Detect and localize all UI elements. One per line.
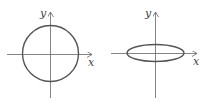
ellipse-graph: x y [111,7,200,98]
y-axis-label: y [39,7,47,20]
x-axis-label: x [193,55,200,68]
circle-graph: x y [7,7,95,98]
y-axis-label: y [144,7,152,20]
x-axis-label: x [88,56,95,69]
diagram-canvas: x y x y [0,0,209,106]
